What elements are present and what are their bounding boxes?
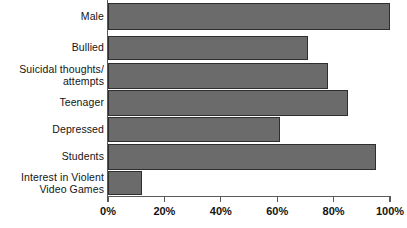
category-label-male: Male <box>0 11 104 23</box>
x-axis-tick-label: 60% <box>266 205 288 218</box>
category-label-line: Interest in Violent <box>0 172 104 184</box>
category-label-line: attempts <box>0 76 104 88</box>
bar-chart: Male Bullied Suicidal thoughts/ attempts… <box>0 0 407 228</box>
category-label-line: Bullied <box>0 42 104 54</box>
category-label-bullied: Bullied <box>0 42 104 54</box>
category-label-teenager: Teenager <box>0 97 104 109</box>
plot-area <box>108 0 390 197</box>
category-label-line: Teenager <box>0 97 104 109</box>
bar-male <box>108 3 390 30</box>
x-axis-tick-label: 100% <box>376 205 404 218</box>
x-axis-tick-mark <box>333 197 334 202</box>
x-axis-tick-label: 20% <box>153 205 175 218</box>
category-label-suicidal-thoughts-attempts: Suicidal thoughts/ attempts <box>0 64 104 87</box>
category-label-line: Suicidal thoughts/ <box>0 64 104 76</box>
bar-depressed <box>108 117 280 142</box>
bar-teenager <box>108 90 348 116</box>
category-axis-labels: Male Bullied Suicidal thoughts/ attempts… <box>0 0 104 197</box>
x-axis-tick-label: 0% <box>100 205 116 218</box>
bar-students <box>108 144 376 170</box>
x-axis-line <box>107 196 391 197</box>
bar-bullied <box>108 36 308 60</box>
bar-suicidal-thoughts-attempts <box>108 63 328 89</box>
category-label-interest-in-violent-video-games: Interest in Violent Video Games <box>0 172 104 195</box>
category-label-depressed: Depressed <box>0 124 104 136</box>
category-label-line: Depressed <box>0 124 104 136</box>
category-label-students: Students <box>0 151 104 163</box>
x-axis-tick-label: 40% <box>210 205 232 218</box>
bar-interest-in-violent-video-games <box>108 171 142 195</box>
x-axis-tick-label: 80% <box>323 205 345 218</box>
category-label-line: Male <box>0 11 104 23</box>
x-axis-tick-mark <box>107 197 108 202</box>
y-axis-line <box>107 0 108 197</box>
x-axis-tick-mark <box>389 197 390 202</box>
category-label-line: Video Games <box>0 184 104 196</box>
x-axis-tick-mark <box>277 197 278 202</box>
x-axis-tick-mark <box>220 197 221 202</box>
x-axis-tick-mark <box>164 197 165 202</box>
category-label-line: Students <box>0 151 104 163</box>
